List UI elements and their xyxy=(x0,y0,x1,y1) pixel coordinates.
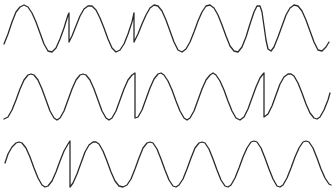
waveform-svg xyxy=(0,0,336,193)
waveform-trace-1 xyxy=(4,5,329,52)
waveform-trace-2 xyxy=(4,73,330,120)
waveform-trace-3 xyxy=(5,141,331,187)
waveform-diagram xyxy=(0,0,336,193)
